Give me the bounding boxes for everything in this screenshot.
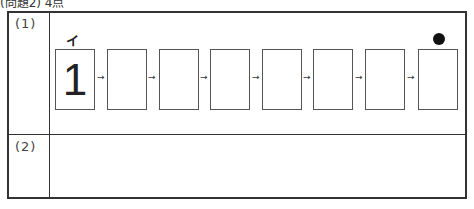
arrow-icon: → bbox=[97, 73, 105, 82]
arrow-icon: → bbox=[355, 73, 363, 82]
answer-box-2[interactable] bbox=[107, 49, 147, 110]
arrow-icon: → bbox=[200, 73, 208, 82]
answer-box-6[interactable] bbox=[313, 49, 353, 110]
column-divider bbox=[49, 13, 50, 197]
row-label-2: (2) bbox=[15, 139, 36, 154]
arrow-icon: → bbox=[303, 73, 311, 82]
box-value: 1 bbox=[63, 58, 87, 102]
answer-box-7[interactable] bbox=[365, 49, 405, 110]
answer-box-4[interactable] bbox=[210, 49, 250, 110]
arrow-icon: → bbox=[407, 73, 415, 82]
arrow-icon: → bbox=[148, 73, 156, 82]
answer-box-5[interactable] bbox=[262, 49, 302, 110]
section-header: (問題2) 4点 bbox=[0, 0, 64, 10]
answer-box-1[interactable]: 1 bbox=[55, 49, 95, 110]
end-dot-icon bbox=[433, 33, 445, 45]
arrow-icon: → bbox=[252, 73, 260, 82]
start-mark: イ bbox=[66, 30, 79, 49]
row-label-1: (1) bbox=[15, 16, 36, 31]
answer-box-8[interactable] bbox=[418, 49, 458, 110]
answer-box-3[interactable] bbox=[159, 49, 199, 110]
row-divider bbox=[9, 134, 465, 135]
